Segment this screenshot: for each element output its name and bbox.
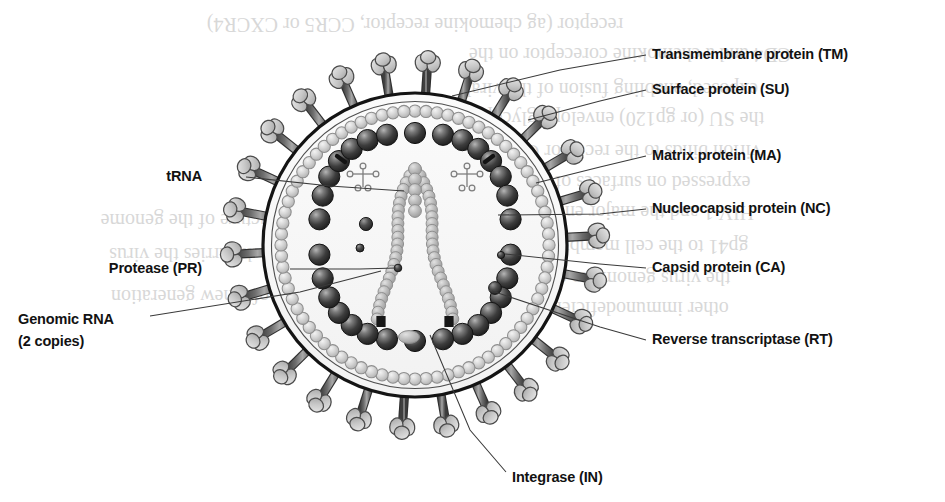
capsid-protein-bead — [376, 329, 397, 350]
bottom-label-group: Integrase (IN) — [512, 469, 603, 485]
matrix-protein-bead — [387, 371, 399, 383]
matrix-protein-bead — [442, 369, 454, 381]
matrix-protein-bead — [420, 372, 432, 384]
matrix-protein-bead — [420, 105, 432, 117]
label-rt: Reverse transcriptase (RT) — [652, 331, 833, 347]
surface-protein-head — [471, 397, 506, 429]
matrix-protein-bead — [279, 272, 291, 284]
matrix-protein-bead — [541, 261, 553, 273]
trna-loop — [360, 163, 366, 169]
matrix-protein-bead — [277, 217, 289, 229]
integrase-particle — [399, 331, 420, 344]
rna-terminus-block — [376, 316, 385, 327]
capsid-protein-bead — [309, 244, 330, 265]
label-rna: Genomic RNA(2 copies) — [18, 311, 115, 349]
label-rna-line2: (2 copies) — [18, 333, 85, 349]
matrix-protein-bead — [277, 261, 289, 273]
matrix-protein-bead — [409, 105, 421, 117]
matrix-protein-bead — [398, 372, 410, 384]
matrix-protein-bead — [542, 228, 554, 240]
label-rna-line1: Genomic RNA — [18, 311, 115, 327]
label-tm: Transmembrane protein (TM) — [652, 46, 848, 62]
surface-protein-head — [342, 405, 376, 435]
capsid-protein-bead — [452, 323, 473, 344]
reverse-transcriptase-particle — [497, 251, 504, 258]
label-ca: Capsid protein (CA) — [652, 259, 786, 275]
left-multiline-label-group: Genomic RNA(2 copies) — [18, 311, 115, 349]
capsid-protein-bead — [357, 130, 378, 151]
surface-protein-head — [240, 320, 274, 356]
rna-terminus-block — [444, 316, 453, 327]
genomic-rna-bead — [409, 205, 422, 218]
trna-loop — [477, 171, 483, 177]
matrix-protein-bead — [431, 107, 443, 119]
virion-diagram-svg: receptor (ag chemokine receptor, CCR5 or… — [0, 0, 945, 502]
matrix-protein-bead — [376, 109, 388, 121]
capsid-protein-bead — [309, 209, 330, 230]
matrix-protein-bead — [275, 228, 287, 240]
matrix-protein-bead — [275, 239, 287, 251]
label-ma: Matrix protein (MA) — [652, 147, 782, 163]
capsid-protein-bead — [312, 185, 333, 206]
capsid-protein-bead — [490, 166, 511, 187]
capsid-protein-bead — [500, 209, 521, 230]
surface-protein-head — [324, 61, 359, 93]
capsid-protein-bead — [404, 122, 425, 143]
ghost-text-line: receptor (ag chemokine receptor, CCR5 or… — [207, 13, 623, 36]
label-pr: Protease (PR) — [109, 260, 202, 276]
capsid-protein-bead — [319, 287, 340, 308]
matrix-protein-bead — [431, 371, 443, 383]
matrix-protein-bead — [542, 250, 554, 262]
surface-protein-head — [232, 150, 264, 185]
label-nc: Nucleocapsid protein (NC) — [652, 200, 831, 216]
label-su: Surface protein (SU) — [652, 81, 790, 97]
trna-loop — [464, 163, 470, 169]
matrix-protein-bead — [543, 239, 555, 251]
matrix-protein-bead — [387, 107, 399, 119]
trna-loop — [373, 171, 379, 177]
matrix-protein-bead — [275, 250, 287, 262]
capsid-protein-bead — [376, 124, 397, 145]
capsid-protein-bead — [432, 124, 453, 145]
label-in: Integrase (IN) — [512, 469, 603, 485]
retrovirus-figure: receptor (ag chemokine receptor, CCR5 or… — [0, 0, 945, 502]
protease-particle — [356, 244, 364, 252]
protease-particle — [359, 217, 372, 230]
matrix-protein-bead — [409, 373, 421, 385]
virion-body — [220, 50, 611, 441]
matrix-protein-bead — [398, 105, 410, 117]
matrix-protein-bead — [539, 206, 551, 218]
capsid-protein-bead — [432, 329, 453, 350]
trna-loop — [451, 171, 457, 177]
trna-loop — [459, 185, 465, 191]
trna-loop — [347, 171, 353, 177]
capsid-protein-bead — [497, 185, 518, 206]
matrix-protein-bead — [541, 217, 553, 229]
trna-loop — [469, 185, 475, 191]
label-trna: tRNA — [166, 168, 202, 184]
